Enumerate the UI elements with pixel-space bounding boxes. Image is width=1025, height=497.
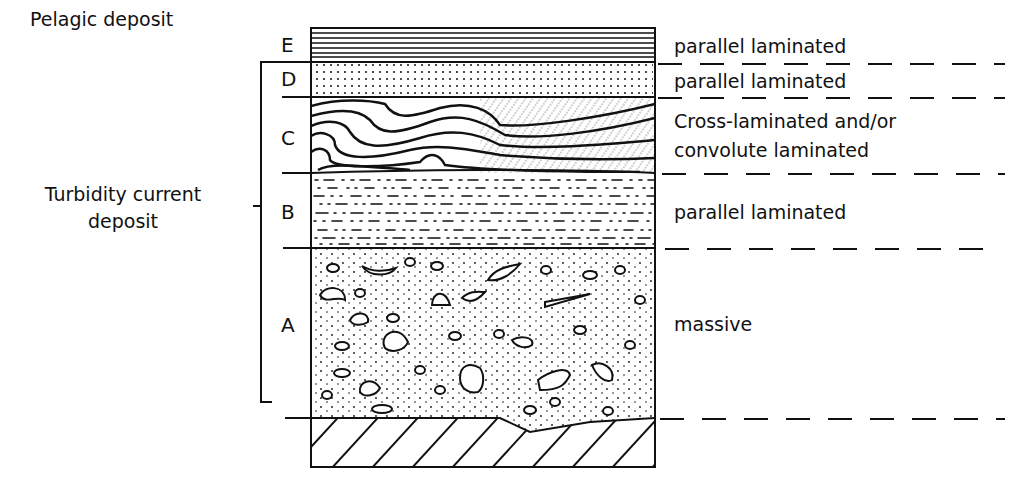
unit-e-pattern <box>311 33 655 57</box>
unit-a-pattern <box>311 248 655 423</box>
unit-b-pattern <box>314 180 655 244</box>
stratigraphic-column <box>0 0 1025 497</box>
unit-c-pattern <box>311 98 655 173</box>
right-dashed-lines <box>658 64 1005 419</box>
turbidity-bracket <box>253 62 272 402</box>
unit-d-pattern <box>313 64 653 95</box>
